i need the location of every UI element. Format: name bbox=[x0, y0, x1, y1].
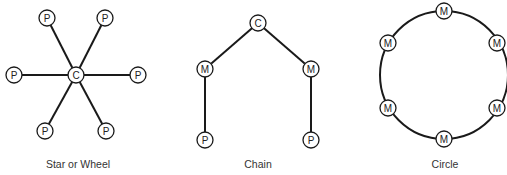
svg-text:P: P bbox=[44, 13, 51, 24]
svg-text:M: M bbox=[307, 64, 315, 75]
node-p: P bbox=[197, 132, 213, 148]
node-m: M bbox=[303, 61, 319, 77]
edge bbox=[205, 23, 258, 69]
svg-text:M: M bbox=[440, 134, 448, 145]
edge bbox=[45, 75, 76, 131]
node-p: P bbox=[303, 132, 319, 148]
communication-networks-diagram: CPPPPPPCMMPPMMMMMM Star or Wheel Chain C… bbox=[0, 0, 507, 175]
network-circle: MMMMMM bbox=[380, 3, 507, 147]
node-c: C bbox=[250, 15, 266, 31]
node-m: M bbox=[436, 3, 452, 19]
node-c: C bbox=[68, 67, 84, 83]
node-p: P bbox=[130, 67, 146, 83]
node-p: P bbox=[37, 123, 53, 139]
svg-text:P: P bbox=[103, 126, 110, 137]
node-p: P bbox=[98, 123, 114, 139]
node-m: M bbox=[380, 100, 396, 116]
svg-text:C: C bbox=[72, 70, 79, 81]
svg-text:P: P bbox=[11, 70, 18, 81]
edge bbox=[258, 23, 311, 69]
node-m: M bbox=[197, 61, 213, 77]
svg-text:P: P bbox=[135, 70, 142, 81]
svg-text:M: M bbox=[384, 38, 392, 49]
network-chain: CMMPP bbox=[197, 15, 319, 148]
node-m: M bbox=[489, 100, 505, 116]
svg-text:P: P bbox=[102, 13, 109, 24]
caption-circle: Circle bbox=[385, 158, 505, 170]
svg-text:M: M bbox=[440, 6, 448, 17]
node-m: M bbox=[436, 131, 452, 147]
node-p: P bbox=[39, 10, 55, 26]
svg-text:M: M bbox=[384, 103, 392, 114]
edge bbox=[47, 18, 76, 75]
node-p: P bbox=[6, 67, 22, 83]
node-m: M bbox=[489, 35, 505, 51]
node-m: M bbox=[380, 35, 396, 51]
svg-text:M: M bbox=[493, 38, 501, 49]
node-p: P bbox=[97, 10, 113, 26]
caption-star: Star or Wheel bbox=[18, 158, 138, 170]
edge bbox=[76, 75, 106, 131]
network-star: CPPPPPP bbox=[6, 10, 146, 139]
svg-text:M: M bbox=[493, 103, 501, 114]
diagram-canvas: CPPPPPPCMMPPMMMMMM bbox=[0, 0, 507, 175]
caption-chain: Chain bbox=[198, 158, 318, 170]
svg-text:P: P bbox=[202, 135, 209, 146]
edge bbox=[76, 18, 105, 75]
ring-edge bbox=[380, 11, 507, 139]
svg-text:M: M bbox=[201, 64, 209, 75]
svg-text:P: P bbox=[308, 135, 315, 146]
svg-text:P: P bbox=[42, 126, 49, 137]
svg-text:C: C bbox=[254, 18, 261, 29]
